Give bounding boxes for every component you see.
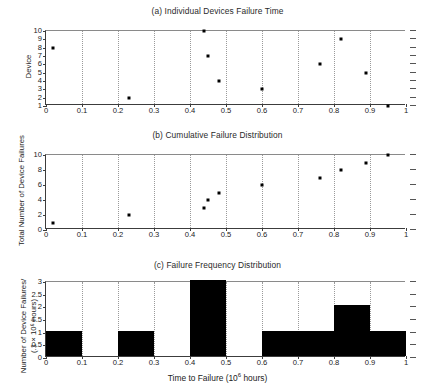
edge-tick-mark bbox=[410, 88, 416, 89]
edge-tick-mark bbox=[410, 214, 416, 215]
gridline-vertical bbox=[298, 155, 299, 228]
gridline-vertical bbox=[298, 31, 299, 104]
panel-b-cumulative-failure-distribution: (b) Cumulative Failure Distribution Tota… bbox=[0, 124, 435, 248]
data-point bbox=[261, 184, 264, 187]
x-axis-tick-label: 1 bbox=[404, 107, 408, 115]
gridline-vertical bbox=[118, 155, 119, 228]
edge-tick-mark bbox=[410, 80, 416, 81]
panel-c-y-axis-label: Number of Device Failures/ (.1 × 10⁶ hou… bbox=[19, 261, 39, 389]
data-point bbox=[127, 214, 130, 217]
data-point bbox=[217, 80, 220, 83]
y-axis-tick bbox=[43, 89, 46, 90]
gridline-vertical bbox=[82, 31, 83, 104]
data-point bbox=[318, 63, 321, 66]
panel-a-plot-area: 00.10.20.30.40.50.60.70.80.9112345678910 bbox=[45, 30, 405, 105]
panel-c-failure-frequency-distribution: (c) Failure Frequency Distribution Numbe… bbox=[0, 248, 435, 389]
x-axis-tick-label: 0.6 bbox=[257, 231, 268, 239]
y-axis-tick bbox=[43, 48, 46, 49]
y-axis-tick-label: 3 bbox=[38, 278, 42, 286]
gridline-vertical bbox=[82, 155, 83, 228]
gridline-vertical bbox=[334, 155, 335, 228]
x-axis-tick-label: 0.7 bbox=[293, 359, 304, 367]
y-axis-tick-label: 2.5 bbox=[31, 291, 42, 299]
data-point bbox=[203, 206, 206, 209]
data-point bbox=[52, 46, 55, 49]
gridline-vertical bbox=[82, 282, 83, 356]
data-point bbox=[340, 169, 343, 172]
y-axis-tick bbox=[43, 200, 46, 201]
y-axis-tick-label: 7 bbox=[38, 52, 42, 60]
x-axis-tick-label: 0.2 bbox=[113, 107, 124, 115]
gridline-vertical bbox=[226, 282, 227, 356]
panel-b-title: (b) Cumulative Failure Distribution bbox=[0, 130, 435, 140]
y-axis-tick bbox=[43, 307, 46, 308]
x-axis-tick-label: 1 bbox=[404, 231, 408, 239]
y-axis-tick-label: 1.5 bbox=[31, 316, 42, 324]
gridline-vertical bbox=[262, 155, 263, 228]
data-point bbox=[365, 161, 368, 164]
x-axis-tick-label: 0.8 bbox=[329, 231, 340, 239]
y-axis-tick-label: 4 bbox=[38, 77, 42, 85]
panel-c-y-axis-label-line1: Number of Device Failures/ bbox=[19, 279, 28, 373]
y-axis-tick bbox=[43, 295, 46, 296]
data-point bbox=[340, 38, 343, 41]
panel-b-y-axis-label: Total Number of Device Failures bbox=[17, 116, 26, 266]
x-axis-tick-label: 0.8 bbox=[329, 359, 340, 367]
edge-tick-mark bbox=[410, 281, 416, 282]
y-axis-tick bbox=[43, 56, 46, 57]
panel-c-x-axis-label: Time to Failure (106 hours) bbox=[0, 373, 435, 383]
panel-a-y-axis-label: Device bbox=[24, 37, 33, 97]
y-axis-tick-label: 4 bbox=[38, 196, 42, 204]
panel-b-plot-area: 00.10.20.30.40.50.60.70.80.910246810 bbox=[45, 154, 405, 229]
gridline-vertical bbox=[334, 31, 335, 104]
y-axis-tick bbox=[43, 320, 46, 321]
x-axis-tick-label: 0.5 bbox=[221, 231, 232, 239]
panel-a-individual-devices-failure-time: (a) Individual Devices Failure Time Devi… bbox=[0, 0, 435, 124]
x-axis-tick-label: 0.9 bbox=[365, 231, 376, 239]
edge-tick-mark bbox=[410, 184, 416, 185]
edge-tick-mark bbox=[410, 199, 416, 200]
y-axis-tick-label: 10 bbox=[34, 27, 42, 35]
gridline-vertical bbox=[154, 31, 155, 104]
histogram-bar bbox=[46, 331, 82, 356]
y-axis-tick-label: 0 bbox=[38, 226, 42, 234]
edge-tick-mark bbox=[410, 357, 416, 358]
y-axis-tick bbox=[43, 185, 46, 186]
gridline-vertical bbox=[226, 31, 227, 104]
gridline-vertical bbox=[154, 155, 155, 228]
y-axis-tick-label: 8 bbox=[38, 44, 42, 52]
edge-tick-mark bbox=[410, 344, 416, 345]
edge-tick-mark bbox=[410, 154, 416, 155]
data-point bbox=[365, 71, 368, 74]
panel-c-plot-area: 00.10.20.30.40.50.60.70.80.9100.511.522.… bbox=[45, 281, 405, 357]
edge-tick-mark bbox=[410, 47, 416, 48]
edge-tick-mark bbox=[410, 229, 416, 230]
x-axis-tick-label: 0.3 bbox=[149, 359, 160, 367]
y-axis-tick bbox=[43, 64, 46, 65]
y-axis-tick bbox=[43, 230, 46, 231]
y-axis-tick-label: 3 bbox=[38, 86, 42, 94]
x-axis-tick-label: 0.9 bbox=[365, 359, 376, 367]
x-axis-tick-label: 0.7 bbox=[293, 107, 304, 115]
histogram-bar bbox=[118, 331, 154, 356]
gridline-vertical bbox=[262, 31, 263, 104]
x-axis-tick-label: 0.1 bbox=[77, 107, 88, 115]
edge-tick-mark bbox=[410, 319, 416, 320]
y-axis-tick bbox=[43, 358, 46, 359]
x-axis-tick-label: 0.2 bbox=[113, 231, 124, 239]
x-axis-label-suffix: hours) bbox=[241, 373, 267, 383]
x-axis-tick-label: 0.6 bbox=[257, 359, 268, 367]
histogram-bar bbox=[190, 280, 226, 356]
x-axis-tick-label: 0.1 bbox=[77, 231, 88, 239]
data-point bbox=[207, 199, 210, 202]
x-axis-tick-label: 1 bbox=[404, 359, 408, 367]
panel-a-title: (a) Individual Devices Failure Time bbox=[0, 6, 435, 16]
y-axis-tick-label: 6 bbox=[38, 61, 42, 69]
y-axis-tick bbox=[43, 39, 46, 40]
failure-analysis-figure: (a) Individual Devices Failure Time Devi… bbox=[0, 0, 435, 389]
histogram-bar bbox=[298, 331, 334, 356]
panel-a-right-edge-ticks bbox=[410, 30, 416, 105]
y-axis-tick-label: 2 bbox=[38, 211, 42, 219]
x-axis-tick-label: 0.4 bbox=[185, 359, 196, 367]
y-axis-tick bbox=[43, 31, 46, 32]
